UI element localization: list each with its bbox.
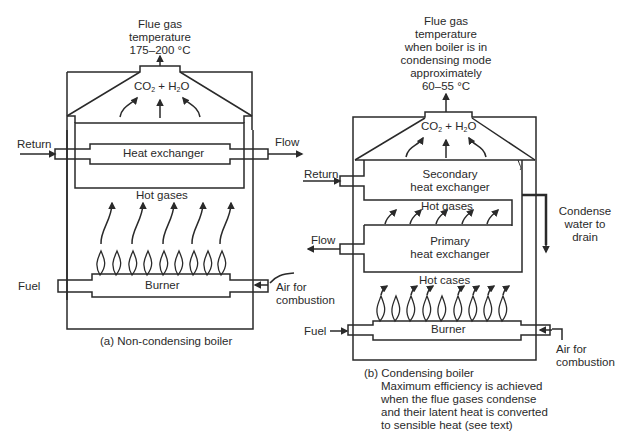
hx-label-line: heat exchanger <box>400 181 500 194</box>
caption-b-title: (b) Condensing boiler <box>364 367 548 380</box>
caption-a: (a) Non-condensing boiler <box>100 335 232 348</box>
air-label-line: Air for <box>276 281 335 294</box>
flue-gas-label-b: Flue gas temperature when boiler is in c… <box>396 15 496 93</box>
flue-label-line: Flue gas <box>120 18 200 31</box>
flue-label-line: 175–200 °C <box>120 44 200 57</box>
caption-b-detail: Maximum efficiency is achieved when the … <box>364 380 548 432</box>
combustion-products-a: CO2 + H2O <box>134 80 189 96</box>
return-label-b: Return <box>304 168 339 181</box>
o-text: O <box>180 80 189 92</box>
hx-label-line: Primary <box>400 235 500 248</box>
secondary-hx-label: Secondary heat exchanger <box>400 168 500 194</box>
plus-h-text: + H <box>442 120 463 132</box>
caption-b: (b) Condensing boiler Maximum efficiency… <box>364 367 548 432</box>
fuel-label-b: Fuel <box>304 325 326 338</box>
air-label-b: Air for combustion <box>556 343 615 369</box>
co-text: CO <box>421 120 438 132</box>
co-text: CO <box>134 80 151 92</box>
condense-label: Condense water to drain <box>550 205 620 244</box>
hot-gases-label-a: Hot gases <box>136 189 188 202</box>
primary-hx-label: Primary heat exchanger <box>400 235 500 261</box>
flue-label-line: approximately <box>396 67 496 80</box>
combustion-products-b: CO2 + H2O <box>421 120 476 136</box>
caption-line: to sensible heat (see text) <box>381 419 548 432</box>
air-label-line: combustion <box>556 356 615 369</box>
flue-label-line: temperature <box>120 31 200 44</box>
air-label-line: Air for <box>556 343 615 356</box>
flue-label-line: temperature <box>396 28 496 41</box>
hx-label-line: Secondary <box>400 168 500 181</box>
heat-exchanger-label: Heat exchanger <box>123 147 204 160</box>
hot-cases-label: Hot cases <box>419 274 470 287</box>
return-label-a: Return <box>17 138 52 151</box>
flue-label-line: Flue gas <box>396 15 496 28</box>
caption-line: Maximum efficiency is achieved <box>381 380 548 393</box>
caption-line: and their latent heat is converted <box>381 406 548 419</box>
o-text: O <box>467 120 476 132</box>
fuel-label-a: Fuel <box>18 280 40 293</box>
condense-label-line: water to <box>550 218 620 231</box>
air-label-line: combustion <box>276 294 335 307</box>
air-label-a: Air for combustion <box>276 281 335 307</box>
flow-label-b: Flow <box>311 234 335 247</box>
caption-line: when the flue gases condense <box>381 393 548 406</box>
burner-label-a: Burner <box>145 279 180 292</box>
condense-label-line: drain <box>550 231 620 244</box>
hx-label-line: heat exchanger <box>400 248 500 261</box>
hot-gases-label-b: Hot gases <box>421 200 473 213</box>
flue-label-line: 60–55 °C <box>396 80 496 93</box>
plus-h-text: + H <box>155 80 176 92</box>
burner-label-b: Burner <box>431 323 466 336</box>
flue-label-line: condensing mode <box>396 54 496 67</box>
flue-gas-label-a: Flue gas temperature 175–200 °C <box>120 18 200 57</box>
flue-label-line: when boiler is in <box>396 41 496 54</box>
flow-label-a: Flow <box>275 136 299 149</box>
condense-label-line: Condense <box>550 205 620 218</box>
